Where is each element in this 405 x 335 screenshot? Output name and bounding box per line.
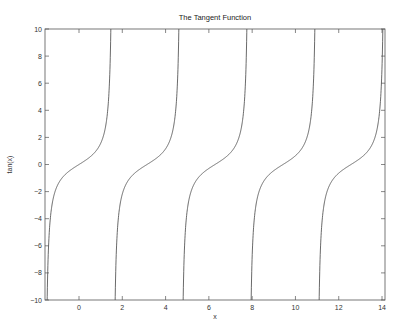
y-tick-label: 4 — [38, 107, 42, 114]
x-tick-label: 14 — [378, 304, 386, 311]
x-tick-label: 8 — [250, 304, 254, 311]
y-tick-label: −10 — [30, 297, 42, 304]
y-tick-label: 6 — [38, 80, 42, 87]
x-axis-label: x — [213, 313, 217, 320]
x-tick-label: 0 — [77, 304, 81, 311]
y-tick-label: −6 — [34, 242, 42, 249]
y-tick-label: −4 — [34, 215, 42, 222]
y-tick-label: −2 — [34, 188, 42, 195]
x-tick-label: 2 — [120, 304, 124, 311]
x-tick-label: 10 — [292, 304, 300, 311]
curves-group — [47, 29, 383, 300]
ticks-group: 02468101214−10−8−6−4−20246810 — [30, 26, 386, 312]
tangent-chart: The Tangent Function 02468101214−10−8−6−… — [0, 0, 405, 335]
x-tick-label: 12 — [335, 304, 343, 311]
chart-title: The Tangent Function — [179, 13, 251, 22]
tan-branch-3 — [183, 29, 247, 300]
tan-branch-5 — [319, 29, 383, 300]
y-tick-label: −8 — [34, 269, 42, 276]
tan-branch-2 — [115, 29, 179, 300]
y-tick-label: 0 — [38, 161, 42, 168]
y-tick-label: 8 — [38, 53, 42, 60]
y-axis-label: tan(x) — [6, 156, 14, 174]
tan-branch-4 — [251, 29, 315, 300]
y-tick-label: 2 — [38, 134, 42, 141]
tan-branch-1 — [47, 29, 111, 300]
x-tick-label: 4 — [164, 304, 168, 311]
y-tick-label: 10 — [34, 26, 42, 33]
x-tick-label: 6 — [207, 304, 211, 311]
